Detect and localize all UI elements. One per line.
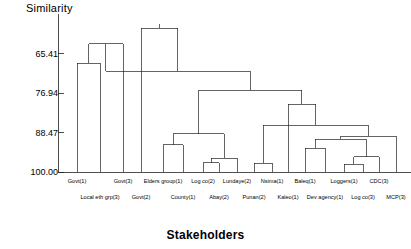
x-axis-title: Stakeholders bbox=[0, 228, 411, 242]
leaf-label: Local eth grp(3) bbox=[77, 194, 123, 200]
dendrogram-plot bbox=[0, 0, 411, 249]
leaf-label: Govt(2) bbox=[118, 194, 164, 200]
leaf-label: MCP(3) bbox=[373, 194, 411, 200]
leaf-label: Govt(1) bbox=[54, 178, 100, 184]
dendrogram-chart: Similarity 65.41 76.94 88.47 100.00 Govt… bbox=[0, 0, 411, 249]
leaf-label: CDC(3) bbox=[356, 178, 402, 184]
